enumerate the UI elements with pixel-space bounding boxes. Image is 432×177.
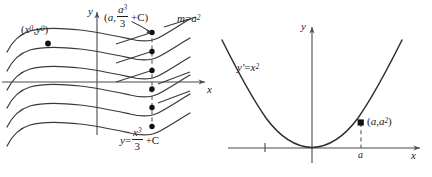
paren-close: ) [44,24,48,35]
curve-family-equation: y = x33+ C [120,128,159,152]
marked-point-1 [149,30,154,35]
tangent-seg-1 [116,33,150,44]
frac-numerator-exp: 3 [138,127,142,135]
left-y-axis [94,12,99,135]
tangent-seg-3 [116,71,150,82]
constant-C: C [152,135,159,146]
left-x-axis-label: x [207,84,212,95]
equals-sign: = [125,135,131,146]
comma: , [113,12,116,23]
frac-denominator: 3 [134,141,142,152]
curve-c2 [7,38,190,71]
slope-label: m = a2 [177,13,200,24]
curve-c6 [7,113,190,146]
left-y-axis-label: y [88,6,93,17]
left-a-tick-label: a [149,84,154,94]
curve-c3 [7,57,190,90]
x-cubed-over-three: x33 [132,127,143,151]
a-exponent: 2 [197,15,201,22]
constant-C: C [137,12,144,23]
parabola-marked-point [358,119,364,125]
right-y-axis-label: y [301,21,306,32]
marked-point-3 [149,68,154,73]
frac-denominator: 3 [119,18,127,29]
marked-point-5 [149,105,154,110]
left-panel-graphics [0,0,432,177]
curve-c4 [7,75,190,108]
initial-point-label: (x0, y0) [21,24,48,35]
marked-point-2 [149,49,154,54]
right-x-axis-label: x [411,150,416,161]
frac-numerator-exp: 3 [123,4,127,12]
paren-close: ) [388,116,392,127]
figure-container: (x0, y0) y x (a, a33+ C) m = a2 a y = x3… [0,0,432,177]
initial-point-dot [45,41,51,47]
top-point-label: (a, a33+ C) [104,5,148,29]
m-symbol: m [177,13,185,24]
right-a-tick-label: a [358,150,363,160]
parabola-point-label: (a, a2) [367,116,392,127]
parabola-equation-label: y′ = x2 [237,62,259,73]
right-y-axis [309,27,314,163]
curve-c5 [7,94,190,127]
a-cubed-over-three: a33 [117,4,128,28]
paren-close: ) [145,12,149,23]
x-exponent: 2 [255,64,259,71]
tangent-seg-2 [116,52,150,63]
